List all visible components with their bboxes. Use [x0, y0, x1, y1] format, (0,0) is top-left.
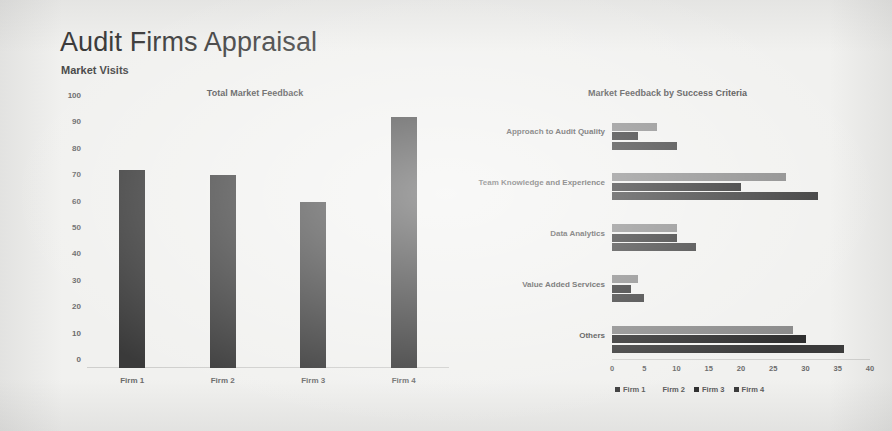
right-bar[interactable]	[612, 224, 677, 232]
legend-item[interactable]: Firm 1	[615, 385, 646, 394]
right-bar[interactable]	[612, 285, 631, 293]
right-x-tick: 5	[642, 364, 646, 373]
right-x-tick: 35	[834, 364, 842, 373]
right-bar[interactable]	[612, 132, 638, 140]
left-bar[interactable]	[300, 202, 326, 368]
left-bar[interactable]	[119, 170, 145, 368]
right-x-tick: 0	[610, 364, 614, 373]
left-bar-slot[interactable]: Firm 1	[87, 104, 178, 368]
right-x-tick: 20	[737, 364, 745, 373]
legend-label: Firm 3	[702, 385, 725, 394]
legend-item[interactable]: Firm 3	[694, 385, 725, 394]
right-axis-line	[612, 359, 870, 360]
right-bar[interactable]	[612, 183, 741, 191]
right-bar[interactable]	[612, 234, 677, 242]
right-plot-area: 0510152025303540Approach to Audit Qualit…	[612, 106, 870, 360]
left-y-tick: 100	[68, 91, 81, 100]
left-x-tick: Firm 2	[178, 376, 269, 385]
left-y-tick: 50	[72, 223, 81, 232]
right-category-label: Others	[579, 330, 605, 339]
chart-legend: Firm 1Firm 2Firm 3Firm 4	[615, 385, 764, 394]
right-bar[interactable]	[612, 294, 644, 302]
left-y-tick: 0	[77, 355, 81, 364]
left-x-tick: Firm 4	[359, 376, 450, 385]
right-bar[interactable]	[612, 192, 818, 200]
right-bar[interactable]	[612, 142, 677, 150]
right-x-tick: 30	[801, 364, 809, 373]
left-y-tick: 40	[72, 249, 81, 258]
legend-swatch	[655, 387, 660, 392]
right-bar[interactable]	[612, 326, 793, 334]
legend-item[interactable]: Firm 2	[655, 385, 686, 394]
right-bar[interactable]	[612, 173, 786, 181]
slide-canvas: Audit Firms Appraisal Market Visits Tota…	[0, 0, 892, 431]
page-subtitle: Market Visits	[61, 64, 129, 76]
right-x-tick: 25	[769, 364, 777, 373]
right-bar[interactable]	[612, 335, 806, 343]
right-category-label: Data Analytics	[550, 229, 605, 238]
left-y-tick: 70	[72, 170, 81, 179]
left-bar[interactable]	[210, 175, 236, 368]
right-bar[interactable]	[612, 123, 657, 131]
left-y-tick: 80	[72, 143, 81, 152]
left-bar-slot[interactable]: Firm 3	[268, 104, 359, 368]
right-bar[interactable]	[612, 243, 696, 251]
left-bar-slot[interactable]: Firm 4	[359, 104, 450, 368]
left-y-tick: 20	[72, 302, 81, 311]
chart-market-feedback-by-criteria: Market Feedback by Success Criteria 0510…	[455, 88, 880, 408]
left-y-tick: 10	[72, 328, 81, 337]
legend-item[interactable]: Firm 4	[734, 385, 765, 394]
left-y-tick: 30	[72, 275, 81, 284]
left-y-tick: 90	[72, 117, 81, 126]
right-x-tick: 40	[866, 364, 874, 373]
legend-label: Firm 2	[663, 385, 686, 394]
left-bar[interactable]	[391, 117, 417, 368]
right-bar[interactable]	[612, 345, 844, 353]
right-category-label: Team Knowledge and Experience	[478, 178, 605, 187]
left-y-tick: 60	[72, 196, 81, 205]
legend-label: Firm 1	[623, 385, 646, 394]
left-bar-slot[interactable]: Firm 2	[178, 104, 269, 368]
chart-total-market-feedback: Total Market Feedback 010203040506070809…	[55, 88, 455, 398]
chart-title-right: Market Feedback by Success Criteria	[455, 88, 880, 98]
right-category-label: Approach to Audit Quality	[506, 127, 605, 136]
right-bar[interactable]	[612, 275, 638, 283]
legend-label: Firm 4	[742, 385, 765, 394]
left-x-tick: Firm 3	[268, 376, 359, 385]
chart-title-left: Total Market Feedback	[55, 88, 455, 98]
page-title: Audit Firms Appraisal	[60, 27, 317, 58]
left-plot-area: 0102030405060708090100Firm 1Firm 2Firm 3…	[87, 104, 449, 368]
legend-swatch	[615, 387, 620, 392]
right-x-tick: 10	[672, 364, 680, 373]
right-x-tick: 15	[705, 364, 713, 373]
left-x-tick: Firm 1	[87, 376, 178, 385]
legend-swatch	[734, 387, 739, 392]
legend-swatch	[694, 387, 699, 392]
right-category-label: Value Added Services	[522, 279, 605, 288]
